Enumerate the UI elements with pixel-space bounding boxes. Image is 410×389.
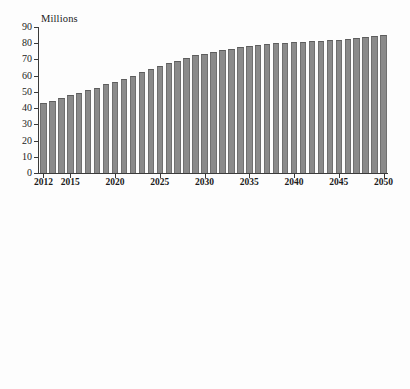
bar bbox=[291, 42, 297, 173]
y-tick-mark bbox=[34, 92, 38, 93]
bar bbox=[139, 72, 145, 173]
bar bbox=[67, 95, 73, 173]
bar bbox=[309, 41, 315, 173]
y-tick-label: 60 bbox=[22, 71, 32, 81]
bar bbox=[300, 42, 306, 173]
bar bbox=[380, 35, 386, 173]
bar bbox=[40, 103, 46, 173]
bar bbox=[103, 84, 109, 173]
chart-panel-percent: Percent of total population 0510152025 2… bbox=[0, 195, 410, 389]
x-tick-label: 2020 bbox=[106, 178, 125, 188]
bar bbox=[49, 101, 55, 174]
bar bbox=[76, 93, 82, 173]
bar bbox=[327, 40, 333, 173]
bar bbox=[85, 90, 91, 173]
y-tick-mark bbox=[34, 141, 38, 142]
y-tick-mark bbox=[34, 124, 38, 125]
bar bbox=[264, 44, 270, 173]
y-tick-label: 30 bbox=[22, 119, 32, 129]
bar bbox=[345, 39, 351, 173]
bar bbox=[174, 61, 180, 173]
y-tick-label: 50 bbox=[22, 87, 32, 97]
bar bbox=[192, 55, 198, 173]
bar bbox=[201, 54, 207, 173]
bar bbox=[112, 82, 118, 173]
x-tick-label: 2030 bbox=[195, 178, 214, 188]
y-tick-mark bbox=[34, 27, 38, 28]
bar bbox=[228, 49, 234, 173]
x-tick-label: 2025 bbox=[150, 178, 169, 188]
bar bbox=[148, 69, 154, 173]
x-tick-label: 2050 bbox=[374, 178, 393, 188]
y-tick-label: 40 bbox=[22, 103, 32, 113]
bar bbox=[237, 47, 243, 173]
bar bbox=[336, 40, 342, 174]
bar bbox=[166, 63, 172, 173]
y-tick-mark bbox=[34, 173, 38, 174]
chart-panel-millions: Millions 0102030405060708090 20122015202… bbox=[0, 0, 410, 195]
bar bbox=[246, 46, 252, 173]
y-tick-label: 90 bbox=[22, 22, 32, 32]
bar bbox=[58, 98, 64, 173]
x-tick-label: 2012 bbox=[34, 178, 53, 188]
bar bbox=[255, 45, 261, 173]
bar bbox=[353, 38, 359, 173]
y-tick-label: 80 bbox=[22, 38, 32, 48]
y-tick-label: 0 bbox=[27, 168, 32, 178]
bar bbox=[210, 52, 216, 174]
bar bbox=[219, 50, 225, 173]
figure-container: Millions 0102030405060708090 20122015202… bbox=[0, 0, 410, 389]
y-tick-mark bbox=[34, 108, 38, 109]
x-axis-line-millions bbox=[38, 173, 388, 174]
x-tick-label: 2045 bbox=[329, 178, 348, 188]
bar bbox=[94, 88, 100, 173]
bar bbox=[183, 58, 189, 173]
bar bbox=[371, 36, 377, 173]
y-tick-mark bbox=[34, 59, 38, 60]
y-tick-mark bbox=[34, 157, 38, 158]
bar bbox=[130, 76, 136, 173]
x-tick-label: 2040 bbox=[285, 178, 304, 188]
plot-area-millions: 0102030405060708090 20122015202020252030… bbox=[38, 27, 388, 174]
y-tick-label: 20 bbox=[22, 136, 32, 146]
bar-series-millions bbox=[39, 27, 388, 173]
bar bbox=[362, 37, 368, 173]
y-tick-label: 70 bbox=[22, 54, 32, 64]
x-tick-label: 2035 bbox=[240, 178, 259, 188]
y-tick-label: 10 bbox=[22, 152, 32, 162]
chart-title-millions: Millions bbox=[41, 13, 78, 24]
bar bbox=[282, 43, 288, 173]
bar bbox=[318, 41, 324, 173]
y-tick-mark bbox=[34, 43, 38, 44]
bar bbox=[121, 79, 127, 173]
bar bbox=[273, 43, 279, 173]
bar bbox=[157, 66, 163, 173]
y-tick-mark bbox=[34, 76, 38, 77]
x-tick-label: 2015 bbox=[61, 178, 80, 188]
